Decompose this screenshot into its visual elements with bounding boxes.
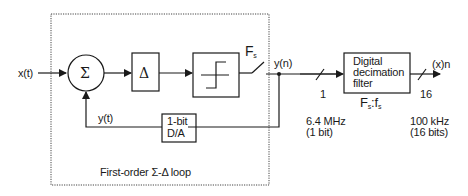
sampler-switch [252, 62, 264, 73]
loop-title: First-order Σ-Δ loop [100, 166, 191, 178]
filter-label: Digital decimation filter [353, 56, 404, 89]
loop-boundary [51, 14, 269, 185]
output-node-label: y(n) [274, 57, 292, 69]
feedback-label: y(t) [98, 112, 113, 124]
filter-ratio: Fs:fs [360, 97, 381, 113]
summer-symbol: Σ [80, 65, 90, 81]
dac-label: 1-bit D/A [167, 115, 187, 139]
bus-out-spec: 100 kHz (16 bits) [410, 116, 449, 138]
comparator-icon [201, 62, 229, 88]
feedback-path [188, 74, 279, 127]
output-label: (x)n [432, 58, 450, 70]
bus-in-spec: 6.4 MHz (1 bit) [306, 116, 346, 138]
bus-out-width: 16 [420, 88, 432, 100]
bus-in-width: 1 [320, 88, 326, 100]
sigma-delta-diagram [0, 0, 468, 196]
sampler-label: Fs [245, 44, 257, 63]
input-label: x(t) [18, 67, 33, 79]
integrator-symbol: Δ [139, 65, 149, 81]
